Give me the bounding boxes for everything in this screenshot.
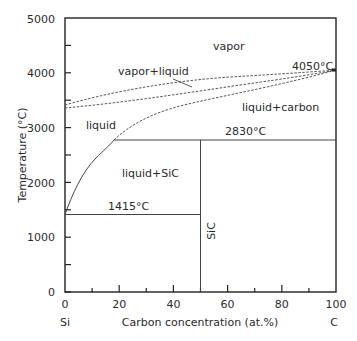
label-2830: 2830°C: [225, 125, 266, 138]
label-1415: 1415°C: [108, 200, 149, 213]
x-end-label-si: Si: [60, 316, 70, 329]
y-axis-ticks: [65, 45, 71, 292]
y-axis-title: Temperature (°C): [16, 108, 29, 204]
y-tick-2000: 2000: [27, 177, 55, 190]
label-vapor: vapor: [213, 40, 245, 53]
vapor-liquid-upper: [65, 70, 336, 105]
label-liquid-carbon: liquid+carbon: [242, 101, 319, 114]
y-tick-0: 0: [48, 286, 55, 299]
label-liquid-sic: liquid+SiC: [122, 167, 179, 180]
label-vapor-liquid: vapor+liquid: [118, 65, 189, 78]
x-tick-60: 60: [221, 298, 235, 311]
x-tick-80: 80: [275, 298, 289, 311]
y-tick-3000: 3000: [27, 122, 55, 135]
y-tick-5000: 5000: [27, 13, 55, 26]
label-4050: 4050°C: [292, 60, 333, 73]
label-sic: SiC: [205, 222, 218, 240]
x-tick-20: 20: [112, 298, 126, 311]
y-tick-labels: 0 1000 2000 3000 4000 5000: [27, 13, 55, 299]
y-tick-1000: 1000: [27, 231, 55, 244]
x-axis-title: Carbon concentration (at.%): [122, 316, 278, 329]
liquidus-solid: [65, 140, 114, 215]
x-tick-100: 100: [326, 298, 347, 311]
x-end-label-c: C: [330, 316, 338, 329]
x-tick-0: 0: [62, 298, 69, 311]
label-liquid: liquid: [86, 119, 116, 132]
x-tick-labels: 0 20 40 60 80 100: [62, 298, 347, 311]
y-tick-4000: 4000: [27, 67, 55, 80]
vapor-liquid-leader: [173, 79, 192, 87]
phase-diagram: 0 1000 2000 3000 4000 5000 0 20 40 60 80…: [0, 0, 357, 341]
x-tick-40: 40: [166, 298, 180, 311]
